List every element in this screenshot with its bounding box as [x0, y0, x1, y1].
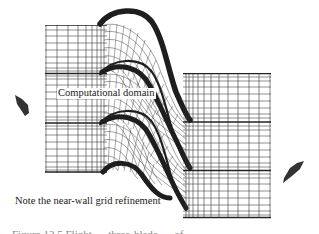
near-wall-refinement-note: Note the near-wall grid refinement [15, 196, 161, 207]
inflow-arrow-icon [15, 95, 29, 116]
blade-passage-mesh [100, 11, 190, 210]
outflow-arrow-icon [283, 161, 304, 183]
inlet-mesh-block [45, 25, 107, 173]
blade-wall [100, 11, 190, 210]
figure-caption-partial: Figure 12.5 Flight … three-blade … of … [12, 229, 197, 234]
computational-domain-label: Computational domain [57, 88, 156, 99]
outlet-mesh-block [183, 73, 271, 218]
